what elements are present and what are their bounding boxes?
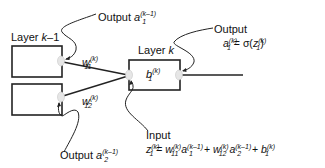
bias-label: b(k)1 bbox=[146, 69, 152, 80]
connection-w12 bbox=[63, 76, 128, 96]
neuron-box-curr bbox=[129, 60, 180, 90]
arrowhead-icon bbox=[57, 102, 61, 107]
node-input-curr bbox=[126, 70, 133, 80]
node-output-curr bbox=[176, 70, 183, 80]
output-label-prev-2: Output a(k–1)2 bbox=[60, 150, 108, 161]
arrowhead-icon bbox=[182, 68, 187, 72]
activation-equation: a(k)1 = σ(z(k)1) bbox=[223, 38, 264, 49]
neuron-box-prev-2 bbox=[12, 84, 62, 115]
weighted-sum-equation: z(k)1 = w(k)11 a(k–1)1 + w(k)12 a(k–1)2 … bbox=[146, 144, 269, 155]
weight-label-w12: w(k)12 bbox=[82, 96, 92, 107]
node-output-prev-1 bbox=[58, 56, 65, 66]
weight-label-w11: w(k)11 bbox=[82, 57, 91, 68]
callout-output-prev-1 bbox=[62, 14, 96, 59]
layer-label-curr: Layer k bbox=[138, 45, 174, 56]
neuron-box-prev-1 bbox=[12, 46, 62, 77]
output-label-prev-1: Output a(k–1)1 bbox=[98, 12, 146, 23]
arrowhead-icon bbox=[65, 56, 70, 60]
layer-label-prev: Layer k–1 bbox=[11, 32, 59, 43]
connection-w11 bbox=[63, 62, 128, 75]
output-title-curr: Output bbox=[214, 24, 247, 35]
node-output-prev-2 bbox=[58, 92, 65, 102]
input-title-curr: Input bbox=[146, 130, 170, 141]
